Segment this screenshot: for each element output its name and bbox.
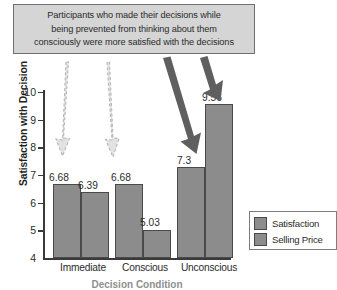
legend-swatch-selling-price — [254, 233, 267, 246]
y-axis-ticks: 10 9 8 7 6 5 4 — [0, 0, 36, 290]
bar-unconscious-sellingprice — [205, 104, 233, 258]
y-tick-label-4: 4 — [4, 252, 36, 264]
y-tick-label-7: 7 — [4, 169, 36, 181]
value-label-conscious-sellingprice: 5.03 — [131, 217, 169, 228]
chart-figure: Participants who made their decisions wh… — [0, 0, 337, 290]
bar-conscious-sellingprice — [143, 230, 171, 259]
x-axis-title: Decision Condition — [43, 279, 231, 290]
caption-line-2: being prevented from thinking about them — [51, 23, 217, 36]
legend-item-selling-price: Selling Price — [254, 231, 336, 247]
caption-line-3: consciously were more satisfied with the… — [34, 36, 234, 49]
legend-swatch-satisfaction — [254, 217, 267, 230]
x-tick-label-unconscious: Unconscious — [173, 262, 245, 273]
y-tick-label-6: 6 — [4, 197, 36, 209]
legend: Satisfaction Selling Price — [249, 211, 337, 250]
value-label-unconscious-satisfaction: 7.3 — [165, 155, 203, 166]
caption-line-1: Participants who made their decisions wh… — [47, 9, 220, 22]
bar-unconscious-satisfaction — [177, 167, 205, 258]
x-axis-line — [43, 258, 231, 260]
value-label-conscious-satisfaction: 6.68 — [102, 172, 140, 183]
legend-label-satisfaction: Satisfaction — [272, 218, 319, 229]
y-tick-label-8: 8 — [4, 141, 36, 153]
y-tick-label-9: 9 — [4, 114, 36, 126]
y-tick-label-5: 5 — [4, 224, 36, 236]
bar-immediate-sellingprice — [81, 192, 109, 258]
x-tick-label-conscious: Conscious — [115, 262, 175, 273]
legend-label-selling-price: Selling Price — [272, 234, 323, 245]
bar-immediate-satisfaction — [53, 184, 81, 258]
y-tick-label-10: 10 — [4, 86, 36, 98]
x-tick-label-immediate: Immediate — [53, 262, 113, 273]
caption-box: Participants who made their decisions wh… — [13, 4, 255, 54]
value-label-unconscious-sellingprice: 9.56 — [193, 92, 231, 103]
legend-item-satisfaction: Satisfaction — [254, 215, 336, 231]
